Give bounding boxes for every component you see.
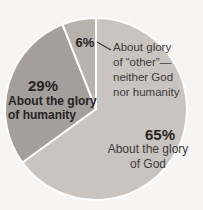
pie-chart-figure: 6% About glory of “other”— neither God n… [0,0,203,210]
slice-label-god-line2: of God [104,157,192,172]
slice-label-god-line1: About the glory [104,142,192,157]
slice-label-other: About glory of “other”— neither God nor … [113,40,195,100]
slice-label-other-line3: neither God [113,70,195,85]
slice-label-29pct: 29% [26,77,60,94]
slice-label-65pct: 65% [132,126,188,143]
slice-label-humanity: About the glory of humanity [8,94,100,122]
slice-label-other-line4: nor humanity [113,85,195,100]
slice-label-humanity-line2: of humanity [8,108,100,122]
slice-label-other-line1: About glory [113,40,195,55]
slice-label-god: About the glory of God [104,142,192,172]
slice-label-humanity-line1: About the glory [8,94,100,108]
slice-label-other-line2: of “other”— [113,55,195,70]
slice-label-6pct: 6% [70,35,100,50]
